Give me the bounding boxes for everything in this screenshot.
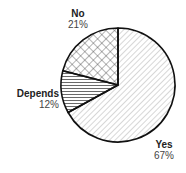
label-depends: Depends 12% <box>15 88 59 110</box>
label-yes: Yes 67% <box>150 139 178 161</box>
label-depends-name: Depends <box>15 88 59 99</box>
label-no-name: No <box>64 8 92 19</box>
label-no: No 21% <box>64 8 92 30</box>
label-depends-pct: 12% <box>15 99 59 110</box>
label-no-pct: 21% <box>64 19 92 30</box>
label-yes-name: Yes <box>150 139 178 150</box>
label-yes-pct: 67% <box>150 150 178 161</box>
